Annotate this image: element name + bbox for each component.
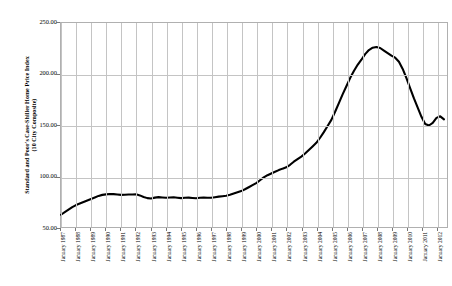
x-axis-tick-label: January 1998 xyxy=(221,232,231,284)
y-axis-ticks: 250.00200.00150.00100.0050.00 xyxy=(0,22,60,228)
x-axis-tick-label: January 2008 xyxy=(372,232,382,284)
gridline-vertical xyxy=(257,23,258,227)
x-axis-tick-mark xyxy=(90,228,91,231)
x-axis-tick-label: January 2006 xyxy=(342,232,352,284)
plot-area xyxy=(60,22,448,228)
y-axis-tick-label: 200.00 xyxy=(4,70,60,76)
x-axis-tick-label-text: January 1990 xyxy=(105,232,111,261)
x-axis-tick-label-text: January 1991 xyxy=(120,232,126,261)
x-axis-tick-label-text: January 2010 xyxy=(407,232,413,261)
x-axis-tick-label: January 1999 xyxy=(236,232,246,284)
x-axis-tick-mark xyxy=(60,228,61,231)
x-axis-tick-label-text: January 2002 xyxy=(286,232,292,261)
x-axis-tick-label-text: January 1992 xyxy=(135,232,141,261)
x-axis-tick-mark xyxy=(105,228,106,231)
x-axis-tick-label: January 2007 xyxy=(357,232,367,284)
x-axis-ticks: January 1987January 1988January 1989Janu… xyxy=(60,228,448,286)
x-axis-tick-label-text: January 2006 xyxy=(347,232,353,261)
x-axis-tick-label: January 2003 xyxy=(297,232,307,284)
x-axis-tick-mark xyxy=(166,228,167,231)
x-axis-tick-label: January 2005 xyxy=(327,232,337,284)
gridline-vertical xyxy=(333,23,334,227)
x-axis-tick-mark xyxy=(151,228,152,231)
y-axis-tick-label: 150.00 xyxy=(4,122,60,128)
x-axis-tick-label-text: January 2008 xyxy=(377,232,383,261)
x-axis-tick-label-text: January 2004 xyxy=(317,232,323,261)
y-axis-tick-label: 50.00 xyxy=(4,225,60,231)
series-polyline xyxy=(61,47,444,215)
x-axis-tick-label-text: January 2011 xyxy=(422,232,428,261)
gridline-horizontal xyxy=(61,178,447,179)
x-axis-tick-mark xyxy=(271,228,272,231)
gridline-vertical xyxy=(212,23,213,227)
x-axis-tick-label: January 1994 xyxy=(161,232,171,284)
x-axis-tick-mark xyxy=(302,228,303,231)
x-axis-tick-label-text: January 1989 xyxy=(90,232,96,261)
x-axis-tick-label: January 2001 xyxy=(266,232,276,284)
x-axis-tick-mark xyxy=(392,228,393,231)
gridline-vertical xyxy=(197,23,198,227)
x-axis-tick-label-text: January 1988 xyxy=(75,232,81,261)
x-axis-tick-label-text: January 1995 xyxy=(181,232,187,261)
x-axis-tick-mark xyxy=(75,228,76,231)
x-axis-tick-label-text: January 2009 xyxy=(392,232,398,261)
gridline-vertical xyxy=(152,23,153,227)
x-axis-tick-label-text: January 2001 xyxy=(271,232,277,261)
y-axis-tick-label: 100.00 xyxy=(4,173,60,179)
gridline-horizontal xyxy=(61,126,447,127)
x-axis-tick-label: January 2011 xyxy=(417,232,427,284)
x-axis-tick-label: January 1996 xyxy=(191,232,201,284)
x-axis-tick-label-text: January 2005 xyxy=(332,232,338,261)
gridline-vertical xyxy=(378,23,379,227)
x-axis-tick-label: January 2010 xyxy=(402,232,412,284)
gridline-vertical xyxy=(182,23,183,227)
x-axis-tick-label: January 2000 xyxy=(251,232,261,284)
gridline-vertical xyxy=(272,23,273,227)
x-axis-tick-label: January 1987 xyxy=(55,232,65,284)
x-axis-tick-label: January 2009 xyxy=(387,232,397,284)
x-axis-tick-label: January 2002 xyxy=(281,232,291,284)
x-axis-tick-label-text: January 1996 xyxy=(196,232,202,261)
x-axis-tick-label: January 1991 xyxy=(115,232,125,284)
x-axis-tick-mark xyxy=(347,228,348,231)
gridline-vertical xyxy=(393,23,394,227)
x-axis-tick-mark xyxy=(437,228,438,231)
x-axis-tick-label: January 1989 xyxy=(85,232,95,284)
gridline-vertical xyxy=(136,23,137,227)
gridline-vertical xyxy=(408,23,409,227)
x-axis-tick-label-text: January 2003 xyxy=(302,232,308,261)
gridline-vertical xyxy=(348,23,349,227)
x-axis-tick-mark xyxy=(135,228,136,231)
x-axis-tick-mark xyxy=(256,228,257,231)
x-axis-tick-label: January 1995 xyxy=(176,232,186,284)
x-axis-tick-label: January 2004 xyxy=(312,232,322,284)
gridline-vertical xyxy=(318,23,319,227)
series-line-case-shiller xyxy=(61,23,447,227)
chart-figure: Standard and Poor's Case-Shiller Home Pr… xyxy=(0,0,452,286)
x-axis-tick-mark xyxy=(377,228,378,231)
x-axis-tick-label-text: January 1999 xyxy=(241,232,247,261)
x-axis-tick-label-text: January 1997 xyxy=(211,232,217,261)
x-axis-tick-label: January 1988 xyxy=(70,232,80,284)
gridline-horizontal xyxy=(61,75,447,76)
x-axis-tick-label: January 1993 xyxy=(146,232,156,284)
x-axis-tick-label-text: January 2007 xyxy=(362,232,368,261)
x-axis-tick-mark xyxy=(226,228,227,231)
gridline-vertical xyxy=(242,23,243,227)
x-axis-tick-label-text: January 1987 xyxy=(60,232,66,261)
x-axis-tick-label: January 1992 xyxy=(130,232,140,284)
x-axis-tick-label: January 1990 xyxy=(100,232,110,284)
x-axis-tick-label: January 1997 xyxy=(206,232,216,284)
gridline-vertical xyxy=(121,23,122,227)
gridline-vertical xyxy=(227,23,228,227)
x-axis-tick-mark xyxy=(196,228,197,231)
x-axis-tick-label-text: January 1998 xyxy=(226,232,232,261)
gridline-vertical xyxy=(167,23,168,227)
x-axis-tick-label-text: January 2000 xyxy=(256,232,262,261)
gridline-vertical xyxy=(106,23,107,227)
x-axis-tick-mark xyxy=(241,228,242,231)
x-axis-tick-mark xyxy=(407,228,408,231)
gridline-vertical xyxy=(363,23,364,227)
x-axis-tick-mark xyxy=(422,228,423,231)
x-axis-tick-label-text: January 2012 xyxy=(437,232,443,261)
